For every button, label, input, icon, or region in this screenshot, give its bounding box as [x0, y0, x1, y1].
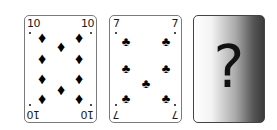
corner-dot [90, 104, 92, 106]
corner-dot [29, 104, 31, 106]
diamond-icon: ♦ [38, 71, 46, 87]
rank-bottom-right: 7 [172, 109, 179, 120]
card-ten-of-diamonds[interactable]: 10 10 10 10 ♦ ♦ ♦ ♦ ♦ ♦ ♦ ♦ ♦ ♦ [24, 15, 97, 123]
diamond-icon: ♦ [75, 30, 83, 46]
club-icon: ♣ [122, 92, 131, 105]
rank-bottom-right: 10 [81, 109, 94, 120]
club-icon: ♣ [122, 35, 131, 48]
corner-dot [90, 32, 92, 34]
corner-dot [115, 32, 117, 34]
rank-top-left: 10 [27, 18, 40, 29]
diamond-icon: ♦ [38, 30, 46, 46]
diamond-icon: ♦ [38, 91, 46, 107]
rank-top-right: 7 [172, 18, 179, 29]
corner-dot [174, 104, 176, 106]
club-icon: ♣ [162, 92, 171, 105]
club-icon: ♣ [142, 77, 151, 90]
corner-dot [29, 32, 31, 34]
diamond-icon: ♦ [75, 91, 83, 107]
diamond-icon: ♦ [57, 39, 65, 55]
rank-top-right: 10 [81, 18, 94, 29]
corner-dot [115, 104, 117, 106]
rank-bottom-left: 7 [113, 109, 120, 120]
diamond-icon: ♦ [38, 51, 46, 67]
club-icon: ♣ [122, 62, 131, 75]
club-icon: ♣ [162, 35, 171, 48]
card-mystery[interactable]: ? [193, 15, 265, 123]
rank-top-left: 7 [113, 18, 120, 29]
diamond-icon: ♦ [75, 51, 83, 67]
card-seven-of-clubs[interactable]: 7 7 7 7 ♣ ♣ ♣ ♣ ♣ ♣ ♣ [109, 15, 182, 123]
club-icon: ♣ [162, 62, 171, 75]
rank-bottom-left: 10 [27, 109, 40, 120]
corner-dot [174, 32, 176, 34]
question-mark-icon: ? [194, 38, 264, 96]
diamond-icon: ♦ [57, 82, 65, 98]
diamond-icon: ♦ [75, 71, 83, 87]
